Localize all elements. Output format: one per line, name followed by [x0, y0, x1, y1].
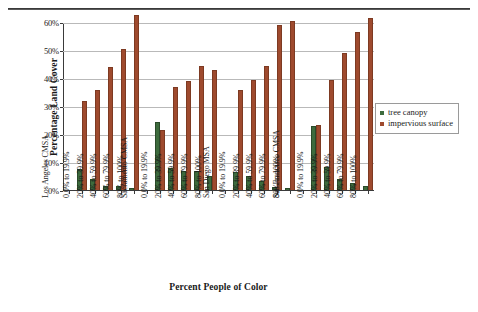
x-axis-category-label: 80% to 100% [128, 196, 141, 274]
bar-impervious-surface[interactable] [134, 15, 139, 191]
x-axis-category-label: 40% to 59.9% [180, 196, 193, 274]
x-axis-category-label: 60% to 79.9% [348, 196, 361, 274]
x-label-group: Sacramento CMSA0.0% to 19.9%20% to 39.9%… [141, 196, 219, 274]
x-label-group: San Diego MSA0.0% to 19.9%20% to 39.9%40… [219, 196, 297, 274]
figure-page: Percentage Land Cover 0%10%20%30%40%50%6… [0, 0, 478, 312]
x-axis-group-label: Sacramento CMSA [141, 196, 154, 274]
x-axis-category-label: 60% to 79.9% [115, 196, 128, 274]
y-axis-tick-mark [60, 79, 63, 80]
x-axis-category-label: 40% to 59.9% [335, 196, 348, 274]
y-axis-tick-label: 60% [44, 18, 59, 28]
chart-legend: tree canopy impervious surface [375, 103, 459, 134]
y-axis-tick-label: 40% [44, 74, 59, 84]
x-axis-category-label: 80% to 100% [361, 196, 374, 274]
x-axis-group-label: Los Angeles CMSA [63, 196, 76, 274]
page-separator-rule [8, 8, 470, 10]
x-axis-category-label: 0.0% to 19.9% [309, 196, 322, 274]
x-axis-category-label: 40% to 59.9% [102, 196, 115, 274]
x-axis-category-label: 60% to 79.9% [270, 196, 283, 274]
y-axis-tick-mark [60, 51, 63, 52]
legend-label: impervious surface [388, 118, 453, 129]
x-axis-group-label: San Francisco CMSA [296, 196, 309, 274]
bar-impervious-surface[interactable] [368, 18, 373, 191]
x-label-group: San Francisco CMSA0.0% to 19.9%20% to 39… [296, 196, 374, 274]
bar-pair[interactable] [283, 23, 296, 191]
x-axis-tick-mark [212, 191, 213, 194]
x-axis-category-label: 60% to 79.9% [193, 196, 206, 274]
legend-label: tree canopy [388, 107, 427, 118]
y-axis-tick-label: 0% [48, 186, 59, 196]
x-axis-category-label: 20% to 39.9% [322, 196, 335, 274]
x-axis-category-label: 20% to 39.9% [167, 196, 180, 274]
legend-swatch-icon [380, 122, 384, 126]
y-axis-tick-mark [60, 23, 63, 24]
x-axis-category-label: 20% to 39.9% [89, 196, 102, 274]
x-label-group: Los Angeles CMSA0.0% to 19.9%20% to 39.9… [63, 196, 141, 274]
y-axis-tick-label: 30% [44, 102, 59, 112]
bar-pair[interactable] [361, 23, 374, 191]
x-axis-category-label: 20% to 39.9% [244, 196, 257, 274]
y-axis-tick-mark [60, 135, 63, 136]
page-header-ghost-text [120, 0, 370, 7]
x-axis-category-label: 0.0% to 19.9% [154, 196, 167, 274]
bar-pair[interactable] [128, 23, 141, 191]
legend-swatch-icon [380, 111, 384, 115]
x-axis-category-label: 0.0% to 19.9% [76, 196, 89, 274]
y-axis-tick-label: 50% [44, 46, 59, 56]
bar-impervious-surface[interactable] [212, 70, 217, 191]
x-axis-category-label: 40% to 59.9% [257, 196, 270, 274]
x-axis-tick-mark [290, 191, 291, 194]
x-axis-group-label: San Diego MSA [219, 196, 232, 274]
x-axis-title: Percent People of Color [63, 282, 374, 292]
x-axis-tick-mark [134, 191, 135, 194]
x-axis-category-label: 80% to 100% [206, 196, 219, 274]
bar-impervious-surface[interactable] [290, 21, 295, 191]
x-axis-category-label: 0.0% to 19.9% [231, 196, 244, 274]
x-axis-tick-mark [368, 191, 369, 194]
y-axis-tick-mark [60, 107, 63, 108]
legend-item-impervious-surface: impervious surface [380, 118, 453, 129]
x-axis-category-label: 80% to 100% [283, 196, 296, 274]
legend-item-tree-canopy: tree canopy [380, 107, 453, 118]
x-axis-tick-labels: Los Angeles CMSA0.0% to 19.9%20% to 39.9… [63, 196, 374, 274]
